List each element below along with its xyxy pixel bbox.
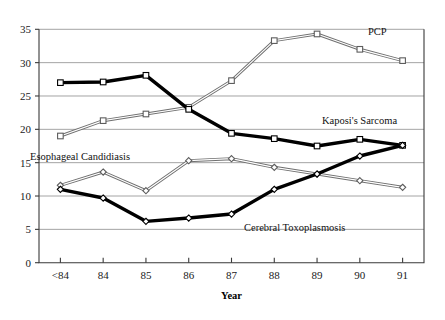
data-point-marker — [228, 156, 234, 162]
series-annotation: Cerebral Toxoplasmosis — [244, 222, 345, 233]
data-point-marker — [58, 80, 64, 86]
y-axis-label: 30 — [20, 57, 32, 69]
gridlines-group — [39, 29, 424, 229]
data-point-marker — [229, 78, 235, 84]
x-axis-label: 88 — [269, 269, 281, 281]
data-point-marker — [143, 111, 149, 117]
y-axis-label: 5 — [26, 223, 32, 235]
data-point-marker — [100, 79, 106, 85]
x-axis-label: 84 — [98, 269, 110, 281]
data-point-marker — [186, 215, 192, 221]
data-point-marker — [357, 178, 363, 184]
y-axis-label: 20 — [20, 123, 32, 135]
data-point-marker — [314, 31, 320, 37]
x-axis-label: 89 — [312, 269, 324, 281]
data-point-marker — [271, 164, 277, 170]
y-axis-tick-labels: 05101520253035 — [20, 23, 32, 268]
data-point-marker — [58, 133, 64, 139]
x-tickmarks-group — [60, 258, 402, 263]
plot-frame — [35, 29, 424, 262]
data-point-marker — [400, 58, 406, 64]
series-annotation: Kaposi's Sarcoma — [322, 115, 397, 126]
series-line — [60, 159, 402, 191]
y-axis-label: 35 — [20, 23, 32, 35]
data-point-marker — [186, 107, 192, 113]
data-point-marker — [100, 118, 106, 124]
data-point-marker — [314, 143, 320, 149]
chart-container: 05101520253035 <848485868788899091 PCPKa… — [0, 0, 445, 320]
data-point-marker — [271, 136, 277, 142]
x-axis-label: 90 — [354, 269, 366, 281]
x-axis-label: 85 — [140, 269, 152, 281]
x-axis-label: 91 — [397, 269, 408, 281]
x-axis-label: <84 — [52, 269, 70, 281]
axis-frame — [39, 29, 424, 262]
series-annotation: PCP — [368, 26, 387, 37]
data-point-marker — [400, 184, 406, 190]
data-point-marker — [229, 131, 235, 137]
y-axis-label: 10 — [20, 190, 32, 202]
x-axis-label: 86 — [183, 269, 195, 281]
y-axis-label: 25 — [20, 90, 32, 102]
series-layer — [57, 31, 405, 224]
line-chart: 05101520253035 <848485868788899091 PCPKa… — [0, 0, 445, 320]
x-axis-label: 87 — [226, 269, 238, 281]
y-axis-label: 0 — [26, 257, 32, 269]
data-point-marker — [271, 38, 277, 44]
data-point-marker — [143, 73, 149, 79]
data-point-marker — [357, 137, 363, 143]
series-annotation: Esophageal Candidiasis — [30, 151, 130, 162]
data-point-marker — [357, 47, 363, 53]
x-axis-tick-labels: <848485868788899091 — [52, 269, 408, 281]
x-axis-title: Year — [221, 290, 242, 301]
